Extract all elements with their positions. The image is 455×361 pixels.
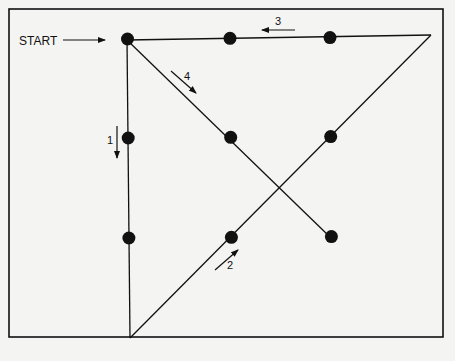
dot-r1-c1: [121, 33, 134, 46]
dot-r2-c2: [224, 131, 237, 144]
dot-r3-c1: [122, 232, 135, 245]
nine-dot-diagram: START 1 2 3 4: [0, 0, 455, 361]
step-4-label: 4: [184, 70, 190, 82]
dot-r2-c1: [122, 132, 135, 145]
dot-r1-c2: [224, 32, 237, 45]
start-label: START: [19, 34, 58, 48]
solution-path: [127, 35, 431, 338]
dot-r3-c2: [225, 231, 238, 244]
step-1-label: 1: [107, 134, 113, 146]
path-segment-3: [127, 35, 431, 40]
step-2-label: 2: [227, 259, 233, 271]
dot-r3-c3: [325, 230, 338, 243]
path-segment-2: [130, 35, 431, 338]
dot-r1-c3: [324, 31, 337, 44]
diagram-frame: [9, 9, 443, 337]
dot-r2-c3: [324, 130, 337, 143]
path-segment-1: [127, 40, 130, 338]
step-3-label: 3: [275, 15, 281, 27]
